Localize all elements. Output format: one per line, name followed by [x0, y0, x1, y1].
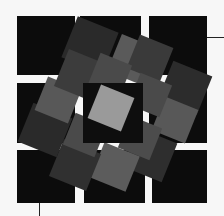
abstract-artwork — [0, 0, 224, 216]
leader-line — [39, 203, 40, 216]
leader-line — [207, 37, 224, 38]
